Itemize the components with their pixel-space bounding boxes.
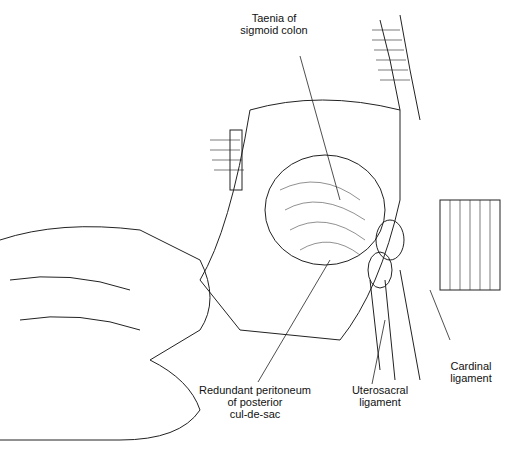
label-uterosacral: Uterosacral ligament [340,384,420,408]
label-cardinal: Cardinal ligament [435,360,507,384]
label-redundant-peritoneum: Redundant peritoneum of posterior cul-de… [180,384,330,420]
label-taenia: Taenia of sigmoid colon [224,12,324,36]
